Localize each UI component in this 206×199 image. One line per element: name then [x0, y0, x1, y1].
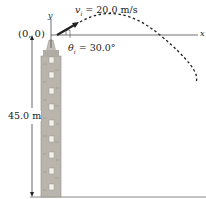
tower-windows: [49, 57, 54, 190]
angle-label: θi = 30.0°: [68, 43, 116, 55]
velocity-arrow: [57, 24, 76, 35]
velocity-value: = 20.0 m/s: [82, 4, 137, 15]
height-label: 45.0 m: [8, 111, 41, 121]
origin-label: (0, 0): [18, 29, 45, 39]
arrow-down-icon: [30, 192, 34, 197]
y-axis-label: y: [48, 12, 53, 20]
tower: [41, 40, 61, 197]
angle-marker: [66, 30, 70, 35]
x-axis-label: x: [200, 30, 205, 38]
angle-value: = 30.0°: [76, 42, 116, 53]
velocity-label: vi = 20.0 m/s: [75, 5, 138, 17]
